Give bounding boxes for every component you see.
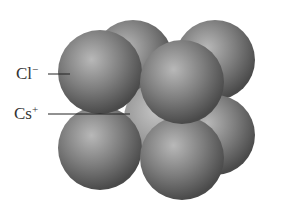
cl-symbol: Cl <box>16 64 32 83</box>
cs-symbol: Cs <box>14 104 32 123</box>
cl-sphere-front-top-right <box>140 40 224 124</box>
cs-label: Cs+ <box>14 104 38 122</box>
spheres-illustration <box>0 0 286 212</box>
cl-sphere-front-bottom-left <box>58 106 142 190</box>
cscl-structure-diagram: Cl− Cs+ <box>0 0 286 212</box>
cl-sphere-front-top-left <box>58 30 142 114</box>
cl-label: Cl− <box>16 64 38 82</box>
cl-charge: − <box>32 63 38 75</box>
cl-sphere-front-bottom-right <box>140 116 224 200</box>
cs-charge: + <box>32 103 38 115</box>
